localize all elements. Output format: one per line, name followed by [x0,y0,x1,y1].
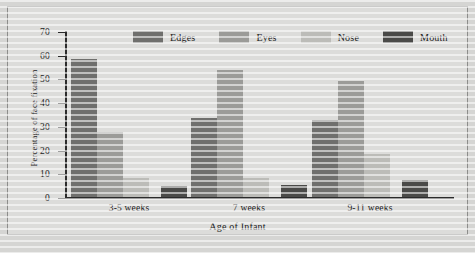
legend-label-edges: Edges [170,32,195,43]
legend-swatch-nose [301,31,331,43]
legend-swatch-eyes [219,31,249,43]
x-tick-label-0: 3-5 weeks [109,203,150,213]
chart-legend: EdgesEyesNoseMouth [133,31,448,43]
legend-label-nose: Nose [338,32,359,43]
x-axis-line [65,197,454,199]
legend-label-eyes: Eyes [256,32,276,43]
legend-item-edges[interactable]: Edges [133,31,219,43]
bar-eyes-1[interactable] [217,70,243,197]
legend-item-mouth[interactable]: Mouth [383,31,448,43]
y-tick-mark [58,151,66,152]
legend-swatch-mouth [383,31,413,43]
chart-plate: EdgesEyesNoseMouth 010203040506070 Perce… [7,6,468,235]
bar-mouth-2[interactable] [402,180,428,197]
legend-item-eyes[interactable]: Eyes [219,31,300,43]
bar-nose-0[interactable] [123,178,149,197]
bar-edges-0[interactable] [71,59,97,197]
legend-item-nose[interactable]: Nose [301,31,383,43]
y-tick-mark [58,127,66,128]
y-tick-label: 70 [8,27,50,37]
x-tick-label-2: 9-11 weeks [347,203,392,213]
y-tick-label: 0 [8,193,50,203]
bar-edges-2[interactable] [312,120,338,197]
y-tick-mark [58,79,66,80]
bar-group-container [67,31,454,197]
y-tick-mark [58,174,66,175]
bar-eyes-2[interactable] [338,81,364,197]
legend-label-mouth: Mouth [420,32,448,43]
legend-swatch-edges [133,31,163,43]
bar-eyes-0[interactable] [97,132,123,197]
bar-nose-1[interactable] [243,178,269,197]
bar-edges-1[interactable] [191,118,217,197]
x-axis-title: Age of Infant [8,221,467,232]
y-tick-mark [58,198,66,199]
y-axis-title: Percentage of face fixation [29,48,39,188]
bar-mouth-1[interactable] [281,185,307,197]
x-tick-label-1: 7 weeks [233,203,265,213]
y-tick-mark [58,56,66,57]
y-tick-mark [58,103,66,104]
bar-mouth-0[interactable] [161,186,187,197]
chart-figure: EdgesEyesNoseMouth 010203040506070 Perce… [0,0,475,253]
y-tick-mark [58,32,66,33]
bar-nose-2[interactable] [364,154,390,197]
